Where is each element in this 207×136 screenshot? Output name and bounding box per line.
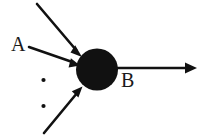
input-arrow-top xyxy=(37,4,82,57)
input-arrow-bottom-shaft xyxy=(44,93,78,134)
ellipsis-dot-2 xyxy=(41,104,45,108)
input-arrow-a-shaft xyxy=(29,47,73,62)
output-label-b: B xyxy=(121,70,134,90)
input-arrow-top-shaft xyxy=(37,4,77,51)
diagram-canvas xyxy=(0,0,207,136)
ellipsis-dot-1 xyxy=(41,78,45,82)
input-label-a: A xyxy=(11,34,25,54)
output-arrow-head xyxy=(185,63,197,74)
soma-node xyxy=(76,49,118,91)
input-arrow-bottom xyxy=(44,87,83,134)
neuron-diagram-figure: A B xyxy=(0,0,207,136)
